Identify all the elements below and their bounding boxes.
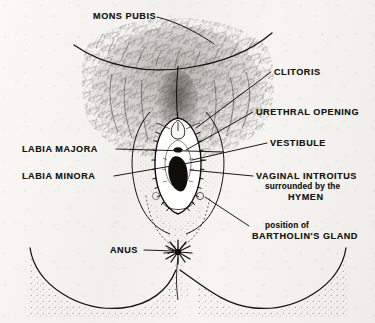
label-vestibule: VESTIBULE: [270, 139, 326, 148]
label-hymen: HYMEN: [288, 193, 324, 202]
leader-anus: [144, 250, 174, 251]
label-labia-minora: LABIA MINORA: [22, 172, 95, 181]
vulva-region: [132, 112, 224, 248]
label-labia-majora: LABIA MAJORA: [22, 145, 98, 154]
label-vaginal-introitus-line2: surrounded by the: [265, 183, 340, 191]
label-bartholins-gland: BARTHOLIN'S GLAND: [252, 232, 358, 241]
label-mons-pubis: MONS PUBIS: [93, 12, 156, 21]
anatomical-drawing: [0, 0, 375, 323]
label-urethral-opening: URETHRAL OPENING: [256, 108, 359, 117]
thighs-region: [20, 244, 356, 323]
label-anus: ANUS: [110, 246, 138, 255]
label-clitoris: CLITORIS: [274, 68, 321, 77]
label-vaginal-introitus: VAGINAL INTROITUS: [256, 172, 357, 181]
label-bartholins-position: position of: [265, 222, 309, 230]
figure-canvas: MONS PUBIS CLITORIS URETHRAL OPENING VES…: [0, 0, 375, 323]
